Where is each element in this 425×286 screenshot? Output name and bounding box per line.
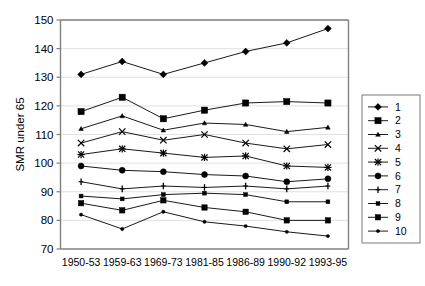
data-point bbox=[283, 40, 290, 47]
data-point bbox=[160, 116, 166, 122]
y-tick-label: 110 bbox=[35, 129, 53, 141]
data-point bbox=[243, 100, 249, 106]
data-point bbox=[202, 205, 207, 210]
data-point bbox=[243, 173, 249, 179]
data-point bbox=[121, 227, 124, 230]
y-tick-label: 90 bbox=[41, 186, 54, 198]
data-point bbox=[161, 198, 166, 203]
series-3 bbox=[79, 114, 330, 134]
series-line bbox=[81, 29, 328, 75]
y-tick-label: 150 bbox=[34, 14, 53, 26]
y-tick-label: 140 bbox=[34, 43, 53, 55]
data-point bbox=[78, 201, 83, 206]
data-point bbox=[325, 100, 331, 106]
data-point bbox=[284, 218, 289, 223]
data-point bbox=[202, 184, 207, 191]
data-point bbox=[120, 186, 125, 193]
y-tick-labels-group: 708090100110120130140150 bbox=[34, 14, 53, 255]
data-point bbox=[162, 210, 165, 213]
legend-label: 1 bbox=[395, 101, 401, 113]
data-point bbox=[203, 220, 206, 223]
y-tick-label: 130 bbox=[34, 71, 53, 83]
y-tick-label: 100 bbox=[34, 157, 53, 169]
data-point bbox=[79, 194, 83, 198]
legend-label: 5 bbox=[395, 156, 401, 168]
data-point bbox=[77, 151, 84, 158]
data-point bbox=[78, 109, 84, 115]
data-point bbox=[326, 234, 329, 237]
data-point bbox=[284, 98, 290, 104]
data-point bbox=[119, 167, 125, 173]
legend-label: 2 bbox=[395, 114, 401, 126]
x-tick-label: 1950-53 bbox=[62, 256, 101, 268]
y-tick-label: 70 bbox=[41, 243, 54, 255]
x-tick-label: 1969-73 bbox=[144, 256, 183, 268]
data-point bbox=[119, 128, 125, 134]
series-10 bbox=[79, 210, 329, 238]
data-point bbox=[284, 179, 290, 185]
data-point bbox=[326, 200, 330, 204]
data-point bbox=[79, 178, 84, 185]
data-point bbox=[243, 209, 248, 214]
data-point bbox=[243, 183, 248, 190]
data-point bbox=[78, 71, 85, 78]
y-tick-label: 120 bbox=[34, 100, 53, 112]
data-point bbox=[160, 150, 167, 157]
chart-legend: 12345678910 bbox=[362, 95, 420, 243]
legend-label: 6 bbox=[395, 170, 401, 182]
data-point bbox=[120, 208, 125, 213]
data-point bbox=[325, 218, 330, 223]
series-8 bbox=[79, 191, 330, 203]
data-point bbox=[202, 172, 208, 178]
data-point bbox=[160, 169, 166, 175]
data-point bbox=[78, 140, 84, 146]
y-tick-label: 80 bbox=[41, 214, 54, 226]
data-point bbox=[120, 114, 125, 118]
x-tick-labels-group: 1950-531959-631969-731981-851986-891990-… bbox=[62, 256, 348, 268]
data-point bbox=[119, 145, 126, 152]
x-tick-label: 1981-85 bbox=[185, 256, 224, 268]
data-point bbox=[374, 159, 381, 166]
data-point bbox=[375, 215, 380, 220]
series-7 bbox=[79, 178, 331, 192]
data-point bbox=[284, 186, 289, 193]
legend-label: 3 bbox=[395, 128, 401, 140]
data-point bbox=[376, 202, 380, 206]
data-point bbox=[201, 60, 208, 67]
legend-box bbox=[362, 95, 420, 243]
data-point bbox=[324, 164, 331, 171]
data-point bbox=[120, 197, 124, 201]
series-line bbox=[81, 212, 328, 236]
data-point bbox=[325, 176, 331, 182]
y-axis-title-group: SMR under 65 bbox=[14, 97, 26, 171]
data-point bbox=[119, 94, 125, 100]
line-chart: 708090100110120130140150 1950-531959-631… bbox=[0, 0, 425, 286]
legend-label: 10 bbox=[395, 225, 407, 237]
data-point bbox=[161, 193, 165, 197]
series-5 bbox=[77, 145, 331, 171]
legend-label: 4 bbox=[395, 142, 401, 154]
data-point bbox=[244, 193, 248, 197]
data-series-group bbox=[77, 25, 331, 238]
data-point bbox=[285, 200, 289, 204]
data-point bbox=[283, 162, 290, 169]
data-point bbox=[244, 224, 247, 227]
x-tick-label: 1993-95 bbox=[309, 256, 348, 268]
x-tick-label: 1990-92 bbox=[268, 256, 307, 268]
data-point bbox=[376, 229, 379, 232]
data-point bbox=[160, 71, 167, 78]
legend-label: 8 bbox=[395, 197, 401, 209]
data-point bbox=[201, 154, 208, 161]
data-point bbox=[203, 191, 207, 195]
x-tick-label: 1959-63 bbox=[103, 256, 142, 268]
data-point bbox=[242, 152, 249, 159]
series-4 bbox=[78, 128, 331, 152]
data-point bbox=[201, 107, 207, 113]
data-point bbox=[375, 173, 381, 179]
data-point bbox=[119, 58, 126, 65]
data-point bbox=[325, 25, 332, 32]
chart-container: 708090100110120130140150 1950-531959-631… bbox=[0, 0, 425, 286]
data-point bbox=[78, 163, 84, 169]
legend-label: 7 bbox=[395, 183, 401, 195]
data-point bbox=[161, 183, 166, 190]
